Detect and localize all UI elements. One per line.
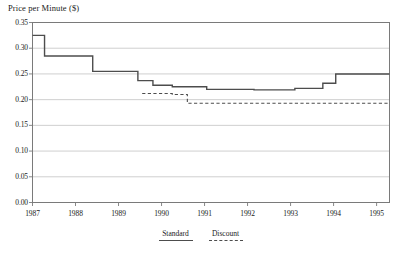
chart-legend: Standard Discount [0,229,401,241]
series-lines [33,35,390,103]
legend-keys [0,240,401,241]
dashed-line-key [209,240,243,241]
y-tick-label: 0.10 [2,146,28,155]
y-tick-label: 0.15 [2,120,28,129]
gridlines [33,48,390,177]
chart-container: Price per Minute ($) 0.000.050.100.150.2… [0,0,401,254]
y-tick-label: 0.05 [2,172,28,181]
legend-key-discount [205,240,247,241]
y-tick-label: 0.30 [2,43,28,52]
x-tick-label: 1988 [58,209,94,218]
legend-label-discount: Discount [205,229,247,238]
x-tick-label: 1994 [316,209,352,218]
plot-frame [33,23,390,203]
x-tick-label: 1992 [230,209,266,218]
series-line-standard [33,35,390,90]
legend-label-standard: Standard [155,229,197,238]
y-tick-label: 0.00 [2,198,28,207]
y-tick-label: 0.20 [2,95,28,104]
series-line-discount [142,93,389,103]
x-tick-label: 1991 [187,209,223,218]
solid-line-key [159,240,193,241]
x-tick-label: 1987 [15,209,51,218]
x-tick-label: 1995 [359,209,395,218]
legend-labels: Standard Discount [0,229,401,238]
x-tick-label: 1990 [144,209,180,218]
x-tick-label: 1993 [273,209,309,218]
legend-key-standard [155,240,197,241]
axis-ticks [29,23,377,207]
y-tick-label: 0.35 [2,18,28,27]
y-tick-label: 0.25 [2,69,28,78]
x-tick-label: 1989 [101,209,137,218]
